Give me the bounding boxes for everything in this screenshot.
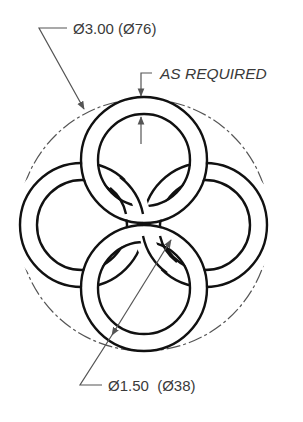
clearance-leader-top (141, 73, 152, 96)
ring-diameter-label: Ø1.50 (Ø38) (108, 378, 196, 393)
technical-drawing (0, 0, 303, 422)
outer-diameter-label: Ø3.00 (Ø76) (73, 21, 156, 36)
outer-diameter-leader (39, 28, 84, 109)
clearance-label: AS REQUIRED (160, 66, 267, 82)
